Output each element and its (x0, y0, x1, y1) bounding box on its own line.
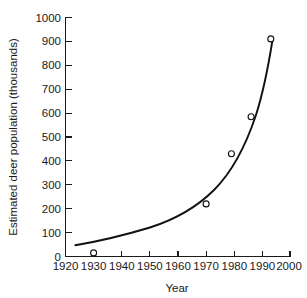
y-axis-tick-labels: 1000 900 800 700 600 500 400 300 200 100… (35, 12, 61, 263)
y-axis-title: Estimated deer population (thousands) (7, 38, 19, 236)
y-tick-label: 600 (42, 107, 61, 119)
data-point-marker (248, 114, 254, 120)
y-tick-label: 400 (42, 155, 61, 167)
plot-area-background (65, 17, 290, 256)
data-point-marker (91, 250, 97, 256)
y-tick-label: 900 (42, 35, 61, 47)
y-tick-label: 800 (42, 59, 61, 71)
x-tick-label: 1940 (109, 260, 135, 272)
y-tick-label: 1000 (35, 12, 61, 24)
x-tick-label: 1970 (193, 260, 219, 272)
x-tick-label: 1920 (53, 260, 79, 272)
x-tick-label: 1990 (250, 260, 276, 272)
y-tick-label: 500 (42, 131, 61, 143)
data-point-marker (268, 36, 274, 42)
chart-canvas: 1000 900 800 700 600 500 400 300 200 100… (0, 0, 307, 298)
y-tick-label: 300 (42, 179, 61, 191)
y-tick-label: 200 (42, 203, 61, 215)
x-tick-label: 1960 (165, 260, 191, 272)
deer-population-chart: 1000 900 800 700 600 500 400 300 200 100… (0, 0, 307, 298)
data-point-marker (203, 201, 209, 207)
x-axis-title: Year (165, 282, 188, 294)
y-tick-label: 100 (42, 227, 61, 239)
y-tick-label: 700 (42, 83, 61, 95)
x-tick-label: 1980 (222, 260, 248, 272)
x-axis-tick-labels: 1920 1930 1940 1950 1960 1970 1980 1990 … (53, 260, 302, 272)
x-tick-label: 2000 (276, 260, 302, 272)
x-tick-label: 1950 (137, 260, 163, 272)
data-point-marker (228, 151, 234, 157)
x-tick-label: 1930 (81, 260, 107, 272)
